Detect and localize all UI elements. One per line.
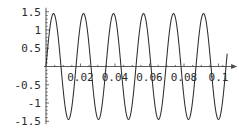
y-tick-label: 1 (34, 24, 41, 37)
x-tick-label: 0.08 (171, 71, 198, 84)
chart-container: -1.5-1-0.50.511.5 0.020.040.060.080.1 (0, 0, 239, 139)
x-tick-label: 0.02 (67, 71, 94, 84)
y-axis-tick-labels: -1.5-1-0.50.511.5 (15, 6, 42, 129)
y-tick-label: 0.5 (21, 42, 41, 55)
y-tick-label: 1.5 (21, 6, 41, 19)
x-tick-label: 0.06 (136, 71, 163, 84)
sine-wave-plot: -1.5-1-0.50.511.5 0.020.040.060.080.1 (0, 0, 239, 139)
y-tick-label: -0.5 (15, 79, 42, 92)
y-tick-label: -1.5 (15, 115, 42, 128)
y-tick-label: -1 (28, 97, 41, 110)
